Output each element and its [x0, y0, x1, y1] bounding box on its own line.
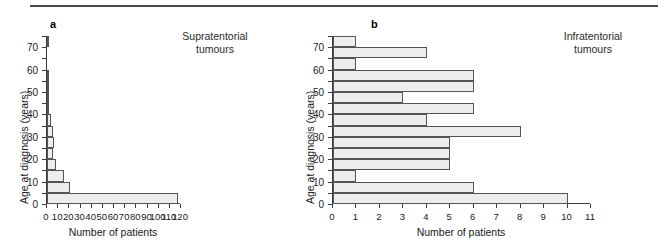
y-tick-1-35	[328, 126, 332, 127]
y-tick-0-50	[42, 92, 46, 93]
x-tick-label-0-2: 20	[63, 211, 74, 222]
x-tick-0-3	[80, 204, 81, 208]
y-tick-1-5	[328, 193, 332, 194]
x-tick-label-0-8: 80	[130, 211, 141, 222]
x-tick-label-1-11: 11	[585, 211, 595, 222]
y-tick-0-60	[42, 70, 46, 71]
panel-letter-b: b	[371, 18, 378, 30]
x-tick-0-5	[102, 204, 103, 208]
y-tick-1-25	[328, 148, 332, 149]
bar	[333, 159, 450, 170]
x-tick-label-1-2: 2	[376, 211, 381, 222]
y-tick-label-1-0: 0	[318, 199, 324, 210]
x-tick-1-5	[449, 204, 450, 208]
y-tick-1-45	[328, 103, 332, 104]
bar	[333, 103, 474, 114]
y-tick-1-30	[328, 137, 332, 138]
x-tick-label-0-4: 40	[85, 211, 96, 222]
y-tick-1-15	[328, 170, 332, 171]
y-tick-label-1-7: 70	[313, 42, 324, 53]
bar	[333, 193, 568, 204]
bar	[333, 182, 474, 193]
y-axis-title-a: Age at diagnosis (years)	[18, 91, 30, 204]
y-tick-label-0-0: 0	[32, 199, 38, 210]
y-tick-1-50	[328, 92, 332, 93]
x-tick-1-3	[402, 204, 403, 208]
x-tick-0-8	[135, 204, 136, 208]
x-tick-1-1	[355, 204, 356, 208]
y-tick-0-15	[42, 170, 46, 171]
x-tick-label-1-0: 0	[329, 211, 334, 222]
bar	[47, 70, 49, 81]
x-tick-1-11	[590, 204, 591, 208]
bar	[47, 126, 53, 137]
bar	[333, 126, 521, 137]
x-tick-label-1-9: 9	[540, 211, 545, 222]
x-tick-0-10	[158, 204, 159, 208]
bar	[333, 92, 403, 103]
bar	[333, 36, 356, 47]
bar	[47, 36, 49, 47]
plot-area-b: 01234567891011010203040506070	[332, 36, 590, 204]
x-tick-0-2	[68, 204, 69, 208]
x-tick-label-0-3: 30	[74, 211, 85, 222]
y-tick-1-20	[328, 159, 332, 160]
x-tick-0-0	[46, 204, 47, 208]
y-tick-0-70	[42, 47, 46, 48]
x-tick-label-0-12: 120	[172, 211, 188, 222]
x-tick-label-1-1: 1	[353, 211, 358, 222]
x-tick-1-6	[473, 204, 474, 208]
bar	[47, 193, 178, 204]
x-tick-0-12	[180, 204, 181, 208]
panel-supratentorial: a Supratentorial tumours 010203040506070…	[0, 0, 333, 246]
x-tick-label-0-5: 50	[97, 211, 108, 222]
x-tick-0-6	[113, 204, 114, 208]
x-tick-label-1-3: 3	[400, 211, 405, 222]
panel-letter-a: a	[50, 18, 56, 30]
x-tick-1-10	[567, 204, 568, 208]
y-tick-1-10	[328, 182, 332, 183]
x-tick-label-0-7: 70	[119, 211, 130, 222]
y-tick-1-70	[328, 47, 332, 48]
x-tick-label-1-5: 5	[447, 211, 452, 222]
y-tick-1-0	[328, 204, 332, 205]
x-tick-1-4	[426, 204, 427, 208]
y-tick-label-1-6: 60	[313, 64, 324, 75]
bar	[333, 137, 450, 148]
y-tick-0-65	[42, 58, 46, 59]
bar	[47, 182, 70, 193]
x-tick-label-1-6: 6	[470, 211, 475, 222]
y-tick-0-75	[42, 36, 46, 37]
bar	[47, 159, 56, 170]
x-tick-1-9	[543, 204, 544, 208]
bar	[47, 103, 49, 114]
y-axis-title-b: Age at diagnosis (years)	[304, 91, 316, 204]
x-tick-0-11	[169, 204, 170, 208]
x-tick-label-1-8: 8	[517, 211, 522, 222]
y-tick-0-45	[42, 103, 46, 104]
y-tick-1-40	[328, 114, 332, 115]
x-tick-1-0	[332, 204, 333, 208]
x-tick-0-4	[91, 204, 92, 208]
y-tick-0-5	[42, 193, 46, 194]
bar	[333, 47, 427, 58]
x-tick-1-8	[520, 204, 521, 208]
x-tick-0-1	[57, 204, 58, 208]
bar	[333, 81, 474, 92]
bar	[47, 81, 49, 92]
figure-container: a Supratentorial tumours 010203040506070…	[0, 0, 666, 246]
bar	[333, 58, 356, 69]
x-axis-title-a: Number of patients	[69, 226, 158, 238]
y-tick-label-0-7: 70	[27, 42, 38, 53]
x-tick-label-1-7: 7	[494, 211, 499, 222]
y-tick-0-40	[42, 114, 46, 115]
x-tick-0-9	[147, 204, 148, 208]
y-tick-1-55	[328, 81, 332, 82]
bar	[47, 137, 54, 148]
x-tick-label-1-10: 10	[561, 211, 572, 222]
bar	[47, 92, 49, 103]
x-tick-0-7	[124, 204, 125, 208]
y-tick-1-60	[328, 70, 332, 71]
bar	[333, 148, 450, 159]
bar	[333, 70, 474, 81]
